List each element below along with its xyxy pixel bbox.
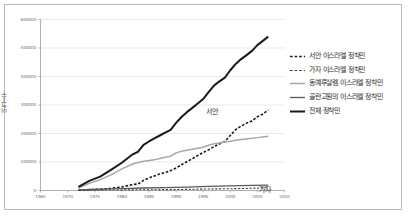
x-tick-label: 1980 (111, 194, 133, 199)
series-line-0 (78, 110, 268, 190)
x-tick-label: 2005 (246, 194, 268, 199)
legend-label: 서안 이스라엘 정착민 (309, 52, 365, 61)
legend-swatch-icon (290, 79, 305, 88)
y-tick-label: 600000 (8, 17, 36, 22)
annotation-west-bank: 서안 (206, 106, 218, 116)
legend-item[interactable]: 서안 이스라엘 정착민 (290, 50, 404, 64)
y-tick-label: 100000 (8, 159, 36, 164)
chart-legend: 서안 이스라엘 정착민가자 이스라엘 정착민동예루살렘 이스라엘 정착민골란고원… (290, 50, 404, 118)
x-tick-label: 1970 (57, 194, 79, 199)
legend-swatch-icon (290, 93, 305, 102)
x-tick-label: 1985 (138, 194, 160, 199)
x-tick-label: 1990 (165, 194, 187, 199)
legend-swatch-icon (290, 107, 305, 116)
series-line-4 (78, 37, 268, 187)
legend-item[interactable]: 전체 정착민 (290, 104, 404, 118)
legend-swatch-icon (290, 52, 305, 61)
annotation-gaza: 가자 (259, 184, 271, 194)
x-tick-label: 1965 (30, 194, 52, 199)
legend-label: 골란고원의 이스라엘 정착민 (309, 93, 383, 102)
legend-item[interactable]: 골란고원의 이스라엘 정착민 (290, 91, 404, 105)
legend-label: 전체 정착민 (309, 107, 340, 116)
legend-label: 가자 이스라엘 정착민 (309, 66, 365, 75)
y-tick-label: 300000 (8, 102, 36, 107)
x-tick-label: 2000 (219, 194, 241, 199)
x-tick-label: 2010 (274, 194, 296, 199)
x-tick-label: 1995 (192, 194, 214, 199)
y-tick-label: 400000 (8, 74, 36, 79)
legend-item[interactable]: 동예루살렘 이스라엘 정착민 (290, 77, 404, 91)
chart-figure: 인구수 서안 이스라엘 정착민가자 이스라엘 정착민동예루살렘 이스라엘 정착민… (0, 0, 408, 217)
y-tick-label: 200000 (8, 131, 36, 136)
legend-item[interactable]: 가자 이스라엘 정착민 (290, 64, 404, 78)
x-tick-label: 1975 (84, 194, 106, 199)
series-line-3 (78, 185, 268, 190)
y-tick-label: 0 (8, 188, 36, 193)
legend-label: 동예루살렘 이스라엘 정착민 (309, 79, 383, 88)
y-tick-label: 500000 (8, 45, 36, 50)
legend-swatch-icon (290, 66, 305, 75)
